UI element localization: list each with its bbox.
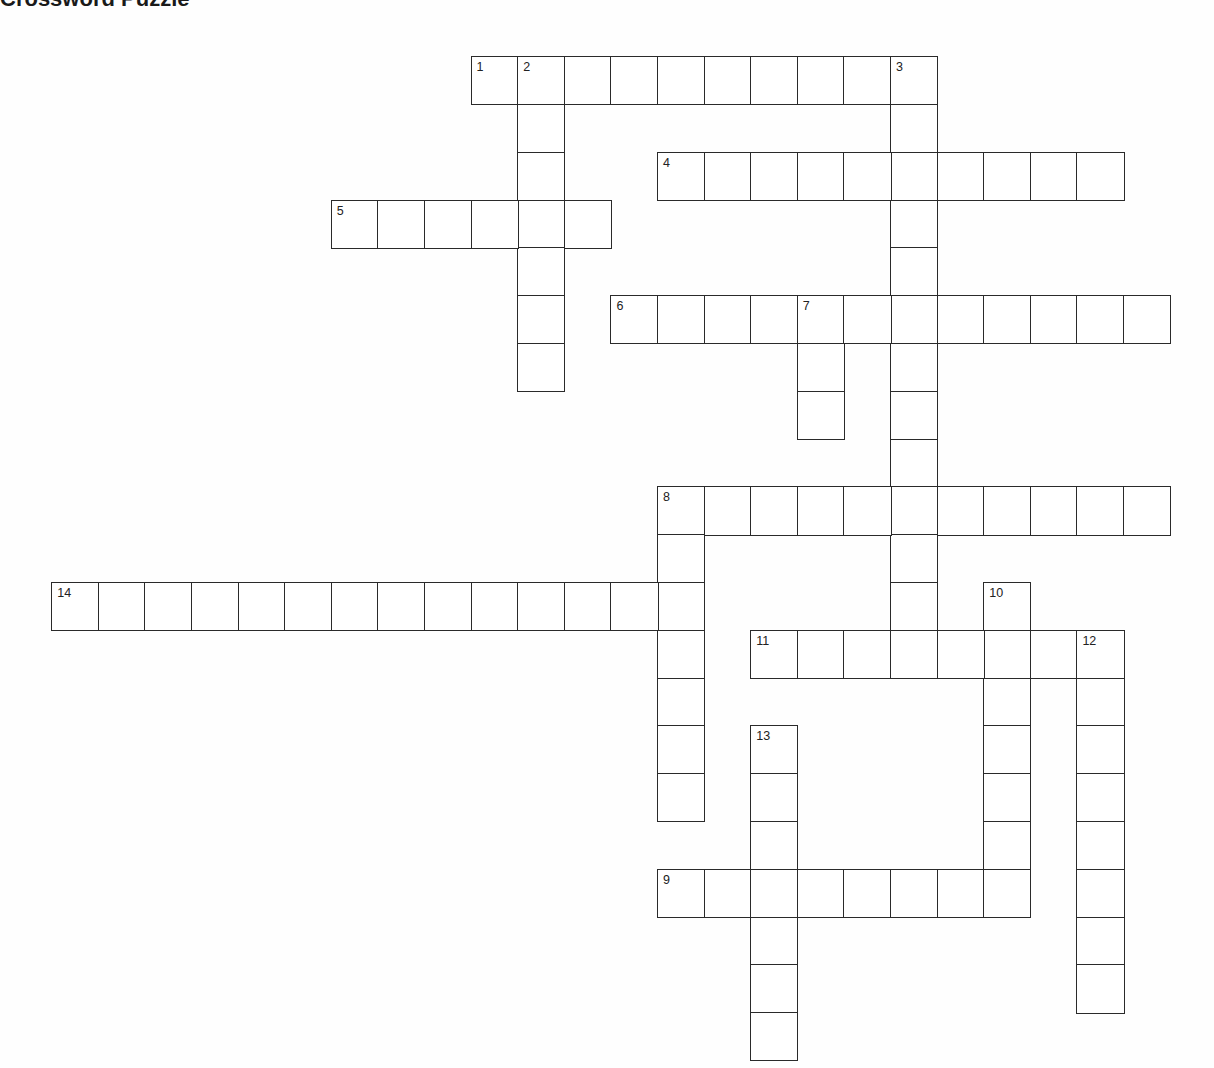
crossword-cell[interactable] bbox=[517, 247, 565, 296]
crossword-cell[interactable]: 4 bbox=[657, 152, 705, 201]
crossword-cell[interactable] bbox=[797, 630, 845, 679]
crossword-cell[interactable] bbox=[843, 630, 891, 679]
crossword-cell[interactable] bbox=[937, 152, 985, 201]
crossword-cell[interactable] bbox=[750, 56, 798, 105]
crossword-cell[interactable]: 6 bbox=[610, 295, 658, 344]
crossword-cell[interactable]: 10 bbox=[983, 582, 1031, 631]
crossword-cell[interactable]: 11 bbox=[750, 630, 798, 679]
crossword-cell[interactable] bbox=[797, 343, 845, 392]
crossword-cell[interactable] bbox=[1030, 486, 1078, 535]
crossword-cell[interactable] bbox=[890, 104, 938, 153]
crossword-cell[interactable] bbox=[704, 295, 752, 344]
crossword-cell[interactable] bbox=[937, 869, 985, 918]
crossword-cell[interactable] bbox=[750, 869, 798, 918]
crossword-cell[interactable]: 13 bbox=[750, 725, 798, 774]
crossword-cell[interactable] bbox=[564, 582, 612, 631]
crossword-cell[interactable] bbox=[1076, 152, 1124, 201]
crossword-cell[interactable] bbox=[1123, 486, 1171, 535]
crossword-cell[interactable] bbox=[890, 869, 938, 918]
crossword-cell[interactable] bbox=[657, 56, 705, 105]
crossword-cell[interactable]: 7 bbox=[797, 295, 845, 344]
crossword-cell[interactable] bbox=[657, 534, 705, 583]
crossword-cell[interactable] bbox=[983, 486, 1031, 535]
crossword-cell[interactable] bbox=[843, 56, 891, 105]
crossword-cell[interactable] bbox=[797, 869, 845, 918]
crossword-cell[interactable] bbox=[937, 295, 985, 344]
crossword-cell[interactable] bbox=[704, 486, 752, 535]
crossword-cell[interactable] bbox=[983, 152, 1031, 201]
crossword-cell[interactable] bbox=[797, 391, 845, 440]
crossword-cell[interactable] bbox=[750, 295, 798, 344]
crossword-cell[interactable]: 5 bbox=[331, 200, 379, 249]
crossword-cell[interactable] bbox=[517, 104, 565, 153]
crossword-cell[interactable] bbox=[704, 152, 752, 201]
crossword-cell[interactable] bbox=[1030, 152, 1078, 201]
crossword-cell[interactable] bbox=[937, 630, 985, 679]
crossword-cell[interactable] bbox=[1076, 486, 1124, 535]
crossword-cell[interactable] bbox=[890, 152, 938, 201]
crossword-cell[interactable] bbox=[983, 630, 1031, 679]
crossword-cell[interactable]: 8 bbox=[657, 486, 705, 535]
crossword-cell[interactable] bbox=[657, 582, 705, 631]
crossword-cell[interactable] bbox=[1076, 678, 1124, 727]
crossword-cell[interactable] bbox=[704, 56, 752, 105]
crossword-cell[interactable] bbox=[424, 200, 472, 249]
crossword-cell[interactable] bbox=[517, 200, 565, 249]
crossword-cell[interactable]: 1 bbox=[471, 56, 519, 105]
crossword-cell[interactable] bbox=[843, 295, 891, 344]
crossword-cell[interactable] bbox=[843, 486, 891, 535]
crossword-cell[interactable] bbox=[890, 391, 938, 440]
crossword-cell[interactable] bbox=[191, 582, 239, 631]
crossword-cell[interactable]: 2 bbox=[517, 56, 565, 105]
crossword-cell[interactable] bbox=[797, 486, 845, 535]
crossword-cell[interactable] bbox=[1076, 917, 1124, 966]
crossword-cell[interactable] bbox=[284, 582, 332, 631]
crossword-cell[interactable] bbox=[983, 869, 1031, 918]
crossword-cell[interactable] bbox=[890, 486, 938, 535]
crossword-cell[interactable]: 9 bbox=[657, 869, 705, 918]
crossword-cell[interactable] bbox=[517, 343, 565, 392]
crossword-cell[interactable] bbox=[843, 869, 891, 918]
crossword-cell[interactable] bbox=[517, 295, 565, 344]
crossword-cell[interactable] bbox=[1076, 773, 1124, 822]
crossword-cell[interactable] bbox=[843, 152, 891, 201]
crossword-cell[interactable] bbox=[610, 582, 658, 631]
crossword-cell[interactable] bbox=[983, 678, 1031, 727]
crossword-cell[interactable] bbox=[377, 582, 425, 631]
crossword-cell[interactable] bbox=[750, 773, 798, 822]
crossword-cell[interactable] bbox=[331, 582, 379, 631]
crossword-cell[interactable] bbox=[983, 295, 1031, 344]
crossword-cell[interactable]: 3 bbox=[890, 56, 938, 105]
crossword-cell[interactable] bbox=[424, 582, 472, 631]
crossword-cell[interactable] bbox=[797, 56, 845, 105]
crossword-cell[interactable] bbox=[704, 869, 752, 918]
crossword-cell[interactable] bbox=[750, 917, 798, 966]
crossword-cell[interactable] bbox=[657, 630, 705, 679]
crossword-cell[interactable]: 12 bbox=[1076, 630, 1124, 679]
crossword-cell[interactable] bbox=[750, 486, 798, 535]
crossword-cell[interactable] bbox=[610, 56, 658, 105]
crossword-cell[interactable] bbox=[657, 295, 705, 344]
crossword-cell[interactable] bbox=[238, 582, 286, 631]
crossword-cell[interactable] bbox=[890, 439, 938, 488]
crossword-cell[interactable] bbox=[983, 773, 1031, 822]
crossword-cell[interactable] bbox=[890, 343, 938, 392]
crossword-cell[interactable] bbox=[1076, 964, 1124, 1013]
crossword-cell[interactable] bbox=[657, 725, 705, 774]
crossword-cell[interactable] bbox=[890, 534, 938, 583]
crossword-cell[interactable] bbox=[564, 56, 612, 105]
crossword-cell[interactable] bbox=[1076, 295, 1124, 344]
crossword-cell[interactable] bbox=[471, 582, 519, 631]
crossword-cell[interactable] bbox=[98, 582, 146, 631]
crossword-cell[interactable] bbox=[1076, 869, 1124, 918]
crossword-cell[interactable] bbox=[564, 200, 612, 249]
crossword-cell[interactable] bbox=[517, 152, 565, 201]
crossword-cell[interactable] bbox=[750, 1012, 798, 1061]
crossword-cell[interactable] bbox=[797, 152, 845, 201]
crossword-cell[interactable] bbox=[377, 200, 425, 249]
crossword-cell[interactable] bbox=[144, 582, 192, 631]
crossword-cell[interactable] bbox=[657, 678, 705, 727]
crossword-cell[interactable] bbox=[750, 964, 798, 1013]
crossword-cell[interactable] bbox=[1030, 630, 1078, 679]
crossword-cell[interactable] bbox=[1030, 295, 1078, 344]
